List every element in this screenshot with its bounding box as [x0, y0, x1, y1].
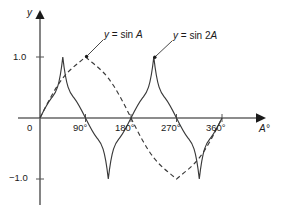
x-tick-label-180: 180°	[115, 123, 135, 133]
annotation-sin-2a: y = sin 2A	[173, 31, 217, 41]
plot-canvas	[0, 0, 289, 213]
y-axis	[35, 10, 44, 205]
x-tick-label-360: 360°	[206, 123, 226, 133]
x-tick-label-90: 90°	[73, 123, 87, 133]
annotation-sin-2a-body: = sin 2	[178, 30, 211, 41]
annotation-sin-a-body: = sin	[109, 29, 136, 40]
y-tick-label-1: 1.0	[13, 52, 26, 62]
annotation-sin-a-arg: A	[136, 29, 143, 40]
y-tick-label-neg1: −1.0	[9, 173, 28, 183]
x-axis-label: A°	[259, 124, 270, 134]
leader-line-sin-2a	[153, 41, 172, 59]
origin-label: 0	[27, 123, 32, 133]
x-tick-label-270: 270°	[161, 123, 181, 133]
x-axis	[18, 113, 266, 123]
y-axis-label: y	[27, 8, 32, 18]
annotation-sin-2a-arg: A	[211, 30, 218, 41]
annotation-sin-a: y = sin A	[104, 30, 143, 40]
sine-curves-figure: y A° 0 1.0 −1.0 90° 180° 270° 360° y = s…	[0, 0, 289, 213]
leader-line-sin-a	[85, 40, 103, 58]
